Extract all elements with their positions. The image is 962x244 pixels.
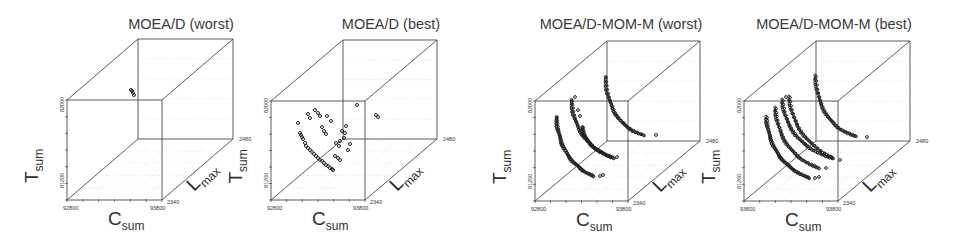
cube-edge	[838, 41, 910, 101]
x-tick-label-max: 93800	[150, 205, 165, 211]
cube-edge	[744, 41, 816, 101]
data-point	[655, 134, 658, 137]
x-axis-label-csum: Csum	[785, 209, 821, 234]
floor-grid-line	[86, 139, 157, 200]
data-point	[839, 159, 842, 162]
floor-grid-line	[290, 139, 362, 200]
data-point	[341, 130, 344, 133]
x-tick-label-max: 93800	[616, 206, 631, 212]
x-tick-label-min: 92800	[531, 206, 546, 212]
data-point	[643, 134, 645, 136]
z-axis-label-tsum: Tsum	[225, 149, 250, 183]
x-tick-label-min: 92800	[267, 205, 282, 211]
floor-grid-line	[143, 139, 214, 200]
panel-moead-mom-m-best: 8200081200938009380023402480MOEA/D-MOM-M…	[698, 16, 928, 234]
z-axis-label-tsum: Tsum	[489, 150, 514, 184]
z-tick-label-min: 81200	[736, 174, 742, 189]
y-axis-label-lmax: Lmax	[385, 156, 426, 197]
chart-canvas: 8200081200928009380023402480MOEA/D (wors…	[0, 0, 962, 244]
data-point	[314, 109, 317, 112]
figure-3d-scatter-grid: 8200081200928009380023402480MOEA/D (wors…	[0, 0, 962, 244]
floor-grid-line	[609, 141, 681, 201]
y-axis-label-lmax: Lmax	[182, 156, 223, 197]
y-tick-label-min: 2340	[633, 200, 645, 206]
data-point	[349, 143, 352, 146]
data-point	[377, 116, 380, 119]
y-tick-label-min: 2340	[370, 199, 382, 205]
data-point	[599, 175, 602, 178]
cube-edge	[271, 40, 343, 101]
panel-title: MOEA/D-MOM-M (worst)	[540, 16, 703, 32]
cube-edge	[628, 41, 700, 101]
y-tick-label-min: 2340	[843, 200, 855, 206]
z-tick-label-min: 81200	[527, 174, 533, 189]
data-point	[602, 174, 605, 177]
x-tick-label-min: 92800	[63, 205, 78, 211]
z-axis-label-tsum: Tsum	[698, 150, 723, 184]
data-point	[577, 109, 580, 112]
z-tick-label-max: 82000	[59, 97, 65, 112]
data-point	[302, 138, 305, 141]
x-tick-label-max: 93800	[826, 206, 841, 212]
y-axis-label-lmax: Lmax	[858, 157, 899, 198]
cube-edge	[67, 139, 138, 200]
z-tick-label-max: 82000	[527, 98, 533, 113]
floor-grid-line	[309, 139, 381, 200]
data-point	[335, 142, 338, 145]
cube-edge	[744, 141, 816, 201]
data-point	[334, 155, 337, 158]
y-tick-label-max: 2480	[239, 136, 251, 142]
y-tick-label-max: 2480	[916, 138, 928, 144]
cube-edge	[535, 41, 607, 101]
y-axis-label-lmax: Lmax	[648, 157, 689, 198]
data-point	[330, 120, 333, 123]
data-point	[343, 137, 346, 140]
panel-moead-worst: 8200081200928009380023402480MOEA/D (wors…	[21, 16, 251, 233]
data-point	[814, 177, 817, 180]
data-point	[323, 130, 326, 133]
data-point	[613, 157, 616, 160]
panel-moead-best: 8200081200928009380023402480MOEA/D (best…	[225, 16, 455, 233]
y-tick-label-min: 2340	[167, 199, 179, 205]
x-axis-label-csum: Csum	[312, 208, 348, 233]
data-point	[825, 167, 828, 170]
data-point	[309, 117, 312, 120]
data-point	[356, 104, 359, 107]
data-point	[616, 156, 619, 159]
data-point	[317, 112, 320, 115]
z-tick-label-max: 82000	[736, 98, 742, 113]
data-point	[133, 94, 136, 97]
data-point	[866, 136, 869, 139]
z-tick-label-min: 81200	[263, 173, 269, 188]
x-axis-label-csum: Csum	[108, 208, 144, 233]
cube-edge	[162, 39, 233, 100]
data-point	[319, 115, 322, 118]
data-point	[339, 159, 342, 162]
floor-grid-line	[124, 139, 195, 200]
data-points	[765, 74, 869, 180]
panel-title: MOEA/D-MOM-M (best)	[756, 16, 911, 32]
panel-title: MOEA/D (worst)	[128, 16, 234, 32]
x-axis-label-csum: Csum	[576, 209, 612, 234]
data-point	[345, 125, 348, 128]
data-point	[326, 115, 329, 118]
data-point	[325, 133, 328, 136]
cube-edge	[67, 39, 138, 100]
data-point	[347, 149, 350, 152]
panel-title: MOEA/D (best)	[342, 16, 440, 32]
data-point	[338, 145, 341, 148]
data-points	[555, 76, 657, 178]
cube-edge	[365, 40, 437, 101]
data-points	[297, 104, 380, 172]
floor-grid-line	[346, 139, 418, 200]
z-axis-label-tsum: Tsum	[21, 149, 46, 183]
y-tick-label-max: 2480	[443, 136, 455, 142]
data-point	[307, 113, 310, 116]
panel-moead-mom-m-worst: 8200081200928009380023402480MOEA/D-MOM-M…	[489, 16, 718, 234]
floor-grid-line	[819, 141, 891, 201]
floor-grid-line	[327, 139, 399, 200]
data-point	[321, 126, 324, 129]
x-tick-label-max: 93800	[353, 205, 368, 211]
z-tick-label-max: 82000	[263, 98, 269, 113]
data-point	[785, 96, 788, 99]
